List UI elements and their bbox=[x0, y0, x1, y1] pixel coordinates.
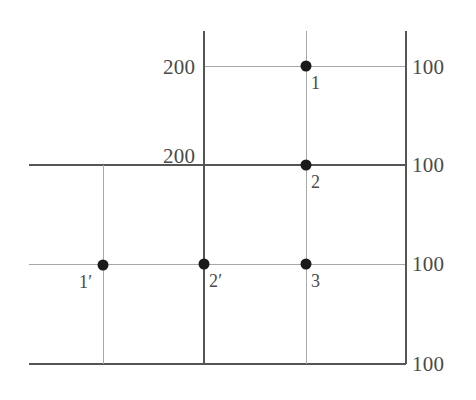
node-label-1: 1 bbox=[311, 74, 320, 92]
node-label-2p: 2′ bbox=[209, 272, 222, 290]
capacity-label-v-top-left: 200 bbox=[163, 57, 195, 78]
node-label-2: 2 bbox=[311, 173, 320, 191]
capacity-label-v-top-right: 100 bbox=[412, 57, 444, 78]
node-dot-1p[interactable] bbox=[98, 260, 109, 271]
capacity-label-v-lower-right: 100 bbox=[412, 254, 444, 275]
node-dot-2[interactable] bbox=[301, 160, 312, 171]
capacity-label-v-bottom-right: 100 bbox=[412, 354, 444, 375]
node-label-3: 3 bbox=[311, 272, 320, 290]
node-dot-2p[interactable] bbox=[199, 259, 210, 270]
node-dot-1[interactable] bbox=[301, 61, 312, 72]
diagram-svg bbox=[0, 0, 476, 400]
node-dot-3[interactable] bbox=[301, 259, 312, 270]
diagram-canvas: 200100200100100100 1231′2′ bbox=[0, 0, 476, 400]
capacity-label-v-middle-left: 200 bbox=[163, 146, 195, 167]
grid-horizontal-lines bbox=[29, 66, 406, 364]
node-label-1p: 1′ bbox=[79, 273, 92, 291]
grid-vertical-lines bbox=[103, 31, 406, 364]
capacity-label-v-middle-right: 100 bbox=[412, 155, 444, 176]
